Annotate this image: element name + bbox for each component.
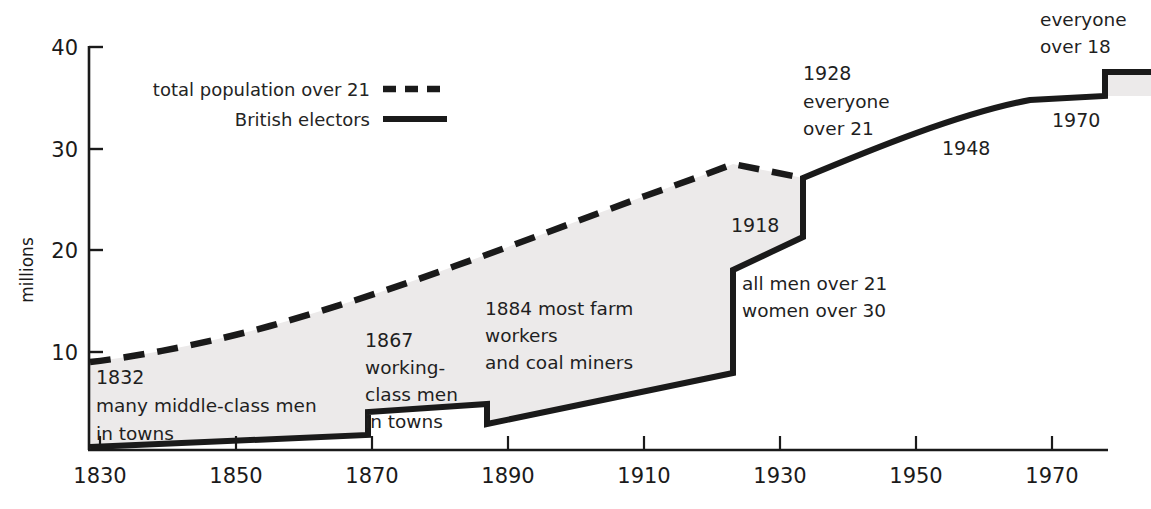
x-tick-label-1830: 1830	[73, 464, 126, 488]
legend-label-british-electors: British electors	[235, 109, 370, 130]
annotation-1928-line2: over 21	[803, 118, 874, 139]
electorate-growth-chart: 40 30 20 10 millions 1830 1850 1870 1890…	[0, 0, 1151, 509]
annotation-1970-line1: everyone	[1040, 9, 1127, 30]
annotation-1884-line1: 1884 most farm	[485, 298, 633, 319]
shaded-area-1970	[1105, 72, 1151, 96]
x-tick-label-1970: 1970	[1025, 464, 1078, 488]
x-tick-label-1910: 1910	[617, 464, 670, 488]
annotation-1928: 1928 everyone over 21	[803, 62, 890, 139]
x-tick-label-1930: 1930	[753, 464, 806, 488]
annotation-1832-line2: in towns	[96, 423, 174, 444]
annotation-1832-year: 1832	[96, 366, 144, 388]
y-tick-marks	[89, 47, 103, 352]
y-tick-label-10: 10	[51, 341, 78, 365]
x-tick-label-1890: 1890	[481, 464, 534, 488]
annotation-1928-year: 1928	[803, 62, 851, 84]
annotation-1832-line1: many middle-class men	[96, 395, 317, 416]
legend: total population over 21 British elector…	[153, 79, 447, 130]
annotation-1918: 1918 all men over 21 women over 30	[731, 214, 887, 321]
annotation-1867-year: 1867	[365, 329, 413, 351]
annotation-1918-line1: all men over 21	[742, 273, 887, 294]
annotation-1884-line2: workers	[485, 325, 558, 346]
y-axis-title: millions	[17, 237, 37, 303]
annotation-1970-year: 1970	[1052, 109, 1100, 131]
annotation-1948-year: 1948	[942, 137, 990, 159]
y-tick-label-20: 20	[51, 239, 78, 263]
annotation-1948: 1948	[942, 137, 990, 159]
annotation-1867-line3: in towns	[365, 411, 443, 432]
x-tick-label-1870: 1870	[345, 464, 398, 488]
annotation-1884-line3: and coal miners	[485, 352, 633, 373]
annotation-1970-line2: over 18	[1040, 36, 1111, 57]
y-tick-label-40: 40	[51, 36, 78, 60]
annotation-1867-line1: working-	[365, 357, 445, 378]
annotation-1918-line2: women over 30	[742, 300, 886, 321]
annotation-1928-line1: everyone	[803, 91, 890, 112]
x-tick-label-1850: 1850	[209, 464, 262, 488]
chart-canvas: 40 30 20 10 millions 1830 1850 1870 1890…	[0, 0, 1151, 509]
legend-label-total-population: total population over 21	[153, 79, 370, 100]
annotation-1918-year: 1918	[731, 214, 779, 236]
y-tick-label-30: 30	[51, 138, 78, 162]
annotation-1867-line2: class men	[365, 384, 458, 405]
x-tick-label-1950: 1950	[889, 464, 942, 488]
